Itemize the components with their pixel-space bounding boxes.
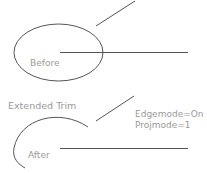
edgemode-setting: Edgemode=On <box>135 109 204 119</box>
diagram-title: Extended Trim <box>8 100 76 111</box>
after-diagonal-line <box>96 96 134 121</box>
after-label: After <box>28 150 50 160</box>
after-trimmed-arc <box>14 117 88 168</box>
before-label: Before <box>30 58 60 68</box>
before-diagonal-line <box>96 1 135 26</box>
projmode-setting: Projmode=1 <box>135 120 191 130</box>
trim-diagram: Before Extended Trim After Edgemode=On P… <box>0 0 207 173</box>
before-panel: Before <box>14 1 188 81</box>
